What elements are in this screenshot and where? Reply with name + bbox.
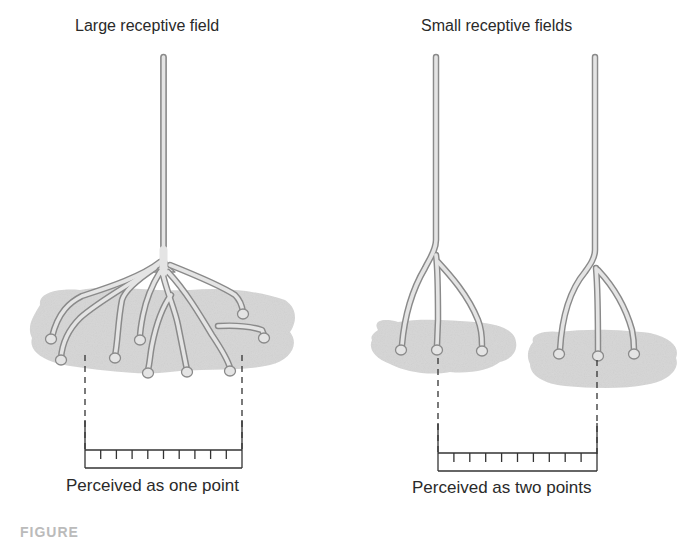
large-field-ruler [85, 420, 242, 468]
small-receptive-field-blob-left [371, 320, 517, 374]
caption-one-point: Perceived as one point [66, 476, 239, 496]
small-fields-ruler [438, 423, 597, 471]
figure-label: FIGURE [20, 524, 79, 540]
caption-two-points: Perceived as two points [412, 478, 592, 498]
small-field-neurons [402, 57, 634, 352]
